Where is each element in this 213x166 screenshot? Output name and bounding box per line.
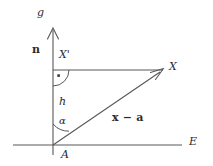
label-point-x: X [169, 61, 177, 72]
label-height-h: h [59, 96, 66, 107]
right-angle-dot-icon [57, 74, 60, 77]
label-axis-e: E [189, 136, 197, 147]
label-axis-g: g [37, 7, 44, 18]
label-normal-vector-n: n [32, 44, 40, 55]
label-angle-alpha: α [59, 116, 66, 126]
label-point-x-prime: X' [59, 49, 70, 60]
geometry-diagram: g n X' X h α x − a A E [0, 0, 213, 166]
label-point-a: A [61, 149, 69, 160]
diagram-canvas [0, 0, 213, 166]
right-angle-arc-icon [53, 70, 69, 86]
vector-x-minus-a-shaft [53, 72, 160, 145]
label-vector-x-minus-a: x − a [112, 112, 144, 123]
